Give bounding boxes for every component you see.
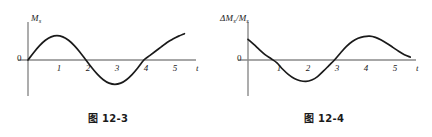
- x-tick-3: 3: [112, 64, 122, 73]
- x-axis-label-12-3: t: [196, 64, 199, 73]
- plot-area-12-4: ΔMs/Ms 0 1 2 3 4 5 t: [216, 0, 432, 108]
- x-tick-5: 5: [390, 64, 400, 73]
- y-axis-label-12-3: Ms: [31, 14, 41, 23]
- caption-cjk-12-4: 图: [304, 113, 314, 124]
- caption-12-4: 图 12-4: [216, 110, 432, 125]
- figure-12-3: Ms 0 1 2 3 4 5 t 图 12-3: [0, 0, 216, 137]
- data-curve-12-3: [28, 34, 184, 85]
- x-axis-label-12-4: t: [416, 64, 419, 73]
- x-tick-4: 4: [361, 64, 371, 73]
- x-tick-4: 4: [141, 64, 151, 73]
- figure-12-4: ΔMs/Ms 0 1 2 3 4 5 t 图 12-4: [216, 0, 432, 137]
- x-tick-1: 1: [54, 64, 64, 73]
- figure-pair: Ms 0 1 2 3 4 5 t 图 12-3 ΔMs/Ms 0 1 2 3: [0, 0, 432, 137]
- origin-label-12-4: 0: [237, 54, 242, 63]
- x-tick-3: 3: [332, 64, 342, 73]
- caption-12-3: 图 12-3: [0, 110, 216, 125]
- x-tick-2: 2: [83, 64, 93, 73]
- x-tick-1: 1: [274, 64, 284, 73]
- origin-label-12-3: 0: [17, 54, 22, 63]
- caption-cjk-12-3: 图: [88, 113, 98, 124]
- caption-number-12-4: 12-4: [318, 113, 344, 124]
- caption-number-12-3: 12-3: [102, 113, 128, 124]
- x-tick-2: 2: [303, 64, 313, 73]
- data-curve-12-4: [248, 36, 410, 81]
- x-tick-5: 5: [170, 64, 180, 73]
- plot-area-12-3: Ms 0 1 2 3 4 5 t: [0, 0, 216, 108]
- y-axis-label-12-4: ΔMs/Ms: [220, 14, 249, 23]
